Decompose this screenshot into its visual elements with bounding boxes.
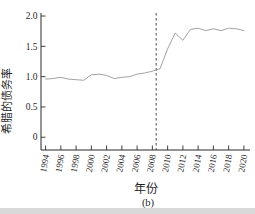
x-tick-label: 1996 — [53, 153, 66, 173]
x-tick-label: 2002 — [99, 154, 112, 173]
debt-ratio-chart: 1994199619982000200220042006200820102012… — [0, 0, 255, 214]
y-tick-label: 0 — [33, 132, 38, 142]
x-tick-label: 2018 — [221, 153, 234, 173]
y-tick-label: 0.5 — [26, 102, 38, 112]
y-tick-label: 1.0 — [26, 72, 38, 82]
x-tick-label: 2020 — [236, 153, 249, 173]
x-tick-label: 2008 — [145, 153, 158, 173]
y-tick-label: 2.0 — [26, 11, 38, 21]
x-tick-label: 2006 — [130, 153, 143, 173]
y-tick-label: 1.5 — [26, 42, 38, 52]
data-line — [46, 28, 244, 80]
x-tick-label: 2014 — [191, 153, 204, 173]
x-tick-label: 2000 — [84, 153, 97, 173]
x-tick-label: 1994 — [38, 153, 51, 173]
x-tick-label: 2016 — [206, 153, 219, 173]
y-axis-title: 希腊的债务率 — [0, 68, 13, 134]
plot-area: 1994199619982000200220042006200820102012… — [26, 11, 250, 173]
axis-spines — [41, 13, 250, 150]
scan-edge-artifact — [0, 208, 255, 214]
x-tick-label: 2010 — [160, 153, 173, 173]
x-tick-label: 1998 — [69, 153, 82, 173]
x-tick-label: 2004 — [114, 153, 127, 173]
subplot-caption: (b) — [142, 197, 155, 209]
figure-panel: 1994199619982000200220042006200820102012… — [0, 0, 255, 214]
x-axis-title: 年份 — [134, 182, 158, 196]
x-tick-label: 2012 — [175, 154, 188, 173]
